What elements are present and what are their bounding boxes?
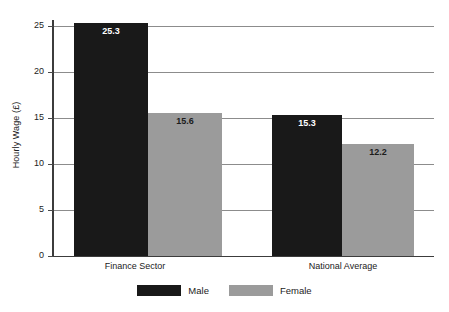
- y-tick-label-5: 5: [18, 205, 44, 214]
- bar-value-national-male: 15.3: [272, 119, 342, 128]
- bar-chart: Hourly Wage (£) 25 20 15 10 5 0 25.3 15.…: [0, 0, 449, 312]
- bar-national-male[interactable]: 15.3: [272, 115, 342, 256]
- y-tick-label-10: 10: [18, 159, 44, 168]
- y-tick-label-20: 20: [18, 67, 44, 76]
- y-axis-title: Hourly Wage (£): [11, 75, 21, 195]
- bar-finance-male[interactable]: 25.3: [74, 23, 148, 256]
- legend-label-male: Male: [188, 285, 209, 296]
- category-label-finance: Finance Sector: [55, 261, 215, 271]
- bar-national-female[interactable]: 12.2: [342, 144, 414, 256]
- bar-finance-female[interactable]: 15.6: [148, 113, 222, 257]
- legend-entry-female[interactable]: Female: [229, 285, 312, 296]
- legend-label-female: Female: [280, 285, 312, 296]
- bar-value-national-female: 12.2: [342, 148, 414, 157]
- y-tick-label-0: 0: [18, 251, 44, 260]
- y-tick-label-15: 15: [18, 113, 44, 122]
- bar-value-finance-male: 25.3: [74, 27, 148, 36]
- y-tick-label-25: 25: [18, 21, 44, 30]
- bar-value-finance-female: 15.6: [148, 117, 222, 126]
- legend-swatch-male-icon: [137, 285, 181, 296]
- legend-swatch-female-icon: [229, 285, 273, 296]
- category-label-national: National Average: [263, 261, 423, 271]
- plot-area: 25.3 15.6 15.3 12.2: [52, 22, 434, 256]
- legend: Male Female: [0, 285, 449, 296]
- legend-entry-male[interactable]: Male: [137, 285, 209, 296]
- y-tick-mark-0: [48, 256, 53, 257]
